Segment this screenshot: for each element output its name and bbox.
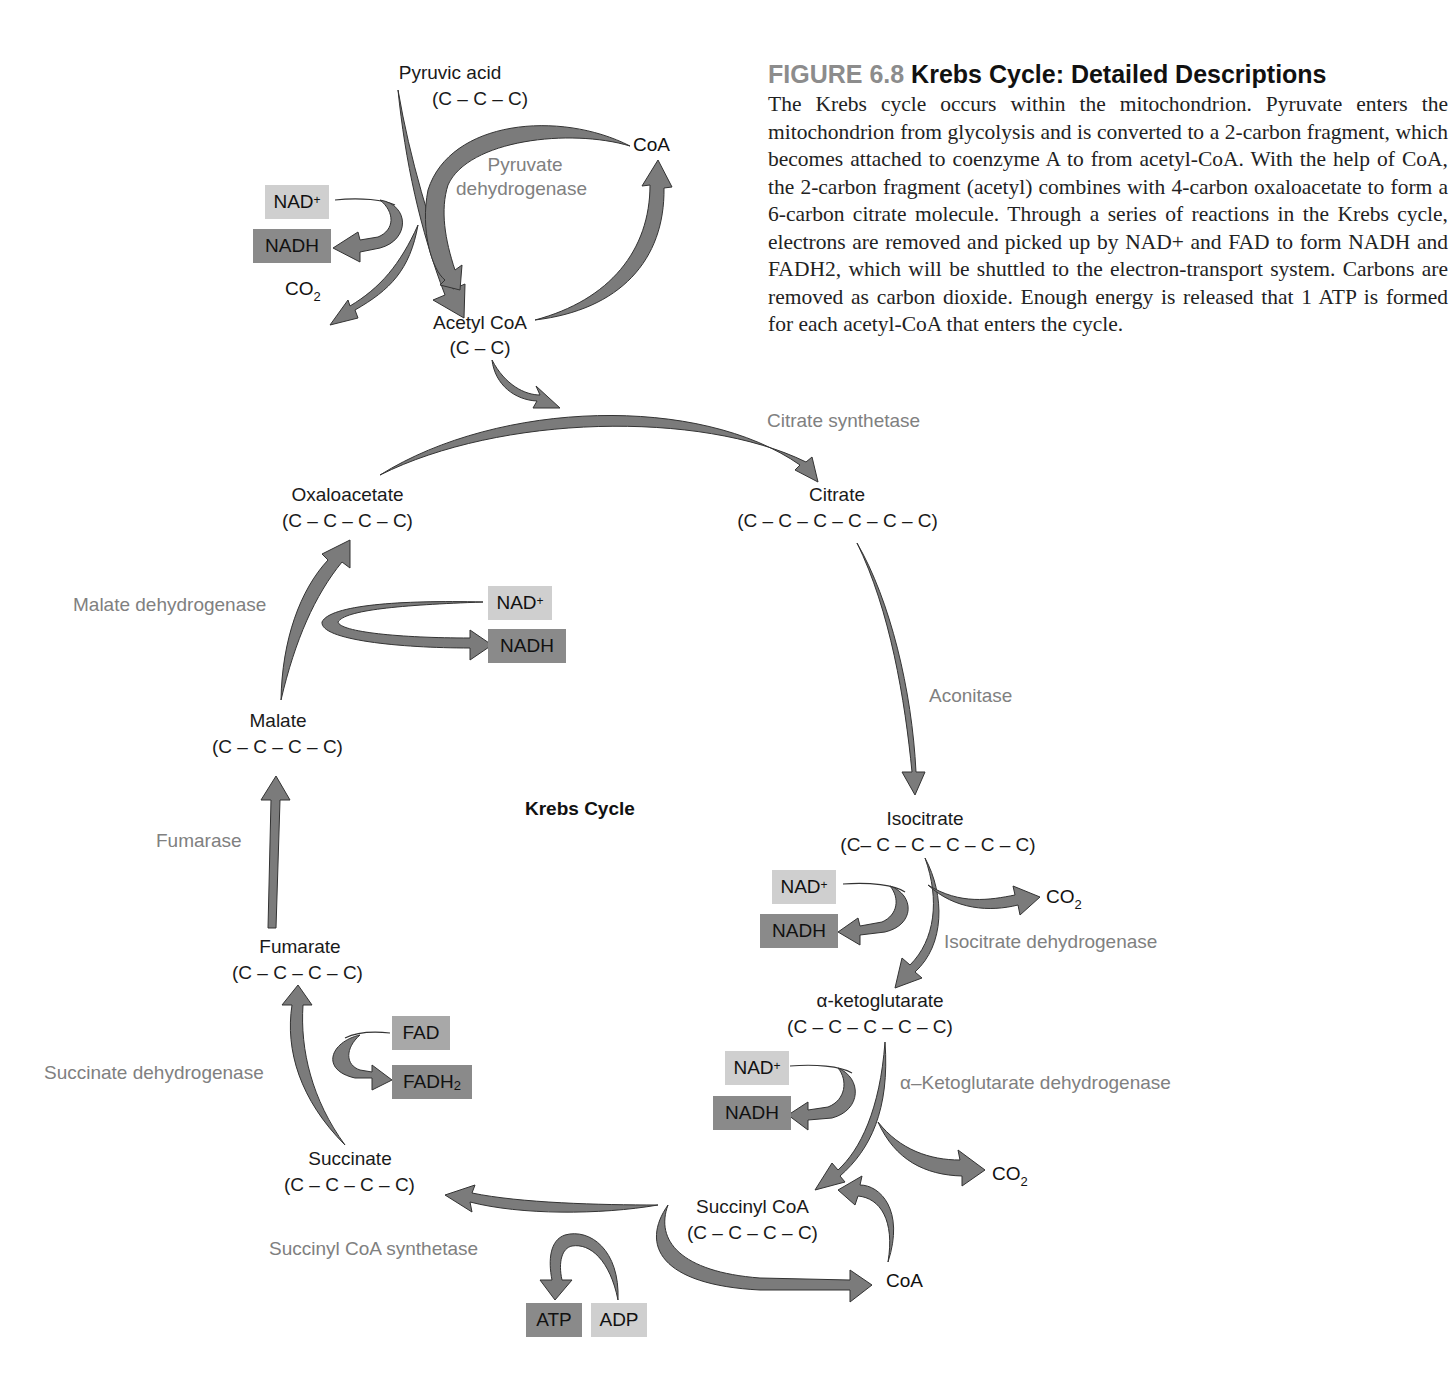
nad-label: NAD [496, 592, 536, 613]
nad-label: NAD [273, 191, 313, 212]
alpha-ketoglutarate-formula: (C – C – C – C – C) [760, 1014, 980, 1040]
isocitrate-formula: (C– C – C – C – C – C) [808, 832, 1068, 858]
pyruvic-acid-name: Pyruvic acid [385, 60, 515, 86]
fumarate-name: Fumarate [245, 934, 355, 960]
nad-charge: + [314, 193, 321, 207]
succinyl-coa-name: Succinyl CoA [685, 1194, 820, 1220]
malate-dehydrogenase-label: Malate dehydrogenase [73, 593, 266, 617]
nadh-box-akg: NADH [713, 1096, 791, 1130]
co2-isocitrate: CO2 [1046, 886, 1082, 908]
arrow-nad-to-nadh [333, 200, 403, 262]
aconitase-label: Aconitase [929, 684, 1012, 708]
succinate-dehydrogenase-label: Succinate dehydrogenase [44, 1061, 264, 1085]
nad-label: NAD [733, 1057, 773, 1078]
fadh2-box: FADH2 [392, 1065, 472, 1099]
nad-box-top: NAD+ [265, 185, 329, 219]
nad-box-isocitrate: NAD+ [772, 870, 836, 904]
succinyl-coa-synthetase-label: Succinyl CoA synthetase [269, 1237, 478, 1261]
co2-subscript: 2 [1075, 897, 1082, 912]
krebs-cycle-arrows [0, 0, 1451, 1382]
malate-formula: (C – C – C – C) [190, 734, 365, 760]
nad-box-malate: NAD+ [488, 586, 552, 620]
co2-top: CO2 [285, 278, 321, 300]
acetyl-coa-formula: (C – C) [430, 335, 530, 361]
malate-name: Malate [228, 708, 328, 734]
krebs-cycle-title: Krebs Cycle [525, 798, 635, 820]
citrate-synthetase-label: Citrate synthetase [767, 409, 920, 433]
arrow-fad-to-fadh2 [333, 1035, 392, 1090]
akg-dehydrogenase-label: α–Ketoglutarate dehydrogenase [900, 1071, 1171, 1095]
adp-box: ADP [591, 1303, 647, 1337]
nadh-box-top: NADH [253, 229, 331, 263]
arrow-succinylcoa-to-succinate [445, 1185, 658, 1212]
oxaloacetate-name: Oxaloacetate [270, 482, 425, 508]
co2-label: CO [1046, 886, 1075, 907]
nad-charge: + [821, 878, 828, 892]
acetyl-coa-name: Acetyl CoA [420, 310, 540, 336]
arrow-isocitrate-nad-to-nadh [838, 886, 908, 945]
fad-box: FAD [392, 1016, 450, 1050]
arrow-oxaloacetate-to-citrate [380, 415, 818, 482]
arrow-akg-nad-to-nadh [788, 1068, 855, 1130]
co2-subscript: 2 [314, 289, 321, 304]
nad-charge: + [537, 594, 544, 608]
isocitrate-name: Isocitrate [860, 806, 990, 832]
fumarate-formula: (C – C – C – C) [210, 960, 385, 986]
figure-page: FIGURE 6.8 Krebs Cycle: Detailed Descrip… [0, 0, 1451, 1382]
fumarase-label: Fumarase [156, 829, 242, 853]
succinyl-coa-formula: (C – C – C – C) [665, 1220, 840, 1246]
co2-label: CO [285, 278, 314, 299]
nad-label: NAD [780, 876, 820, 897]
arrow-citrate-to-isocitrate [857, 543, 925, 795]
co2-label: CO [992, 1163, 1021, 1184]
atp-box: ATP [526, 1303, 582, 1337]
alpha-ketoglutarate-name: α-ketoglutarate [800, 988, 960, 1014]
succinate-formula: (C – C – C – C) [262, 1172, 437, 1198]
succinate-name: Succinate [295, 1146, 405, 1172]
arrow-coa-into-succinylcoa [838, 1176, 894, 1262]
arrow-akg-to-co2 [878, 1122, 985, 1186]
pyruvate-dehydrogenase-line1: Pyruvate [485, 153, 565, 177]
arrow-acetylcoa-into-cycle [492, 360, 560, 408]
nadh-box-malate: NADH [488, 629, 566, 663]
coa-top: CoA [633, 134, 670, 156]
coa-bottom: CoA [886, 1270, 923, 1292]
arrow-fumarate-to-malate [261, 776, 290, 928]
oxaloacetate-formula: (C – C – C – C) [260, 508, 435, 534]
arrow-coa-into-acetylcoa [425, 126, 630, 290]
citrate-formula: (C – C – C – C – C – C) [705, 508, 970, 534]
pyruvic-acid-formula: (C – C – C) [415, 86, 545, 112]
co2-akg: CO2 [992, 1163, 1028, 1185]
fadh2-label: FADH [403, 1071, 454, 1092]
arrow-isocitrate-to-co2 [928, 885, 1040, 915]
arrow-malate-nad-to-nadh [322, 602, 492, 660]
nadh-box-isocitrate: NADH [760, 914, 838, 948]
nad-box-akg: NAD+ [725, 1051, 789, 1085]
arrow-adp-to-atp [540, 1234, 618, 1300]
isocitrate-dehydrogenase-label: Isocitrate dehydrogenase [944, 930, 1157, 954]
co2-subscript: 2 [1021, 1174, 1028, 1189]
pyruvate-dehydrogenase-line2: dehydrogenase [456, 177, 587, 201]
nad-charge: + [774, 1059, 781, 1073]
citrate-name: Citrate [787, 482, 887, 508]
fadh2-subscript: 2 [454, 1078, 461, 1093]
